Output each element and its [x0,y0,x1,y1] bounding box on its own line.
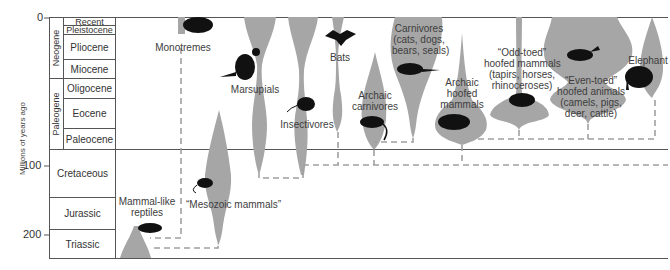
connector-mesozoic [150,246,218,248]
label-monotremes: Monotremes [150,42,216,53]
echidna-icon [183,17,213,33]
label-line: Archaic [350,90,400,101]
y-axis-title: Millions of years ago [18,89,27,189]
era-neogene: Neogene [49,18,63,78]
connector-placental-base [303,165,668,175]
label-line: hoofed [437,88,487,99]
tick-label-0: 0 [37,11,43,23]
label-line: mammals [437,99,487,110]
label-even-toed: “Even-toed” hoofed animals (camels, pigs… [554,75,628,119]
label-bats: Bats [328,52,352,63]
label-line: hoofed mammals [484,58,560,69]
label-marsupials: Marsupials [230,84,280,95]
kangaroo-icon [220,48,260,80]
period-jurassic: Jurassic [50,198,115,230]
label-line: Carnivores [392,23,446,34]
label-line: Archaic [437,77,487,88]
shrew-icon [287,97,315,112]
label-line: hoofed animals [554,86,628,97]
era-paleogene-label: Paleogene [51,92,61,135]
label-archaic-hoofed: Archaic hoofed mammals [437,77,487,110]
era-paleogene: Paleogene [49,79,63,149]
period-miocene: Miocene [64,60,115,79]
label-line: (cats, dogs, [392,34,446,45]
period-pleistocene: Pleistocene [64,26,115,35]
period-cretaceous: Cretaceous [50,150,115,198]
label-line: deer, cattle) [554,108,628,119]
label-carnivores: Carnivores (cats, dogs, bears, seals) [392,23,446,56]
archaic-hoofed-icon [438,114,470,130]
tick-label-100: 100 [23,159,41,171]
label-line: rhinoceroses) [484,80,560,91]
label-archaic-carnivores: Archaic carnivores [350,90,400,112]
tapir-icon [509,93,535,107]
label-odd-toed: “Odd-toed” hoofed mammals (tapirs, horse… [484,47,560,91]
period-triassic: Triassic [50,230,115,258]
branch-mesozoic-mammals [205,110,231,246]
period-oligocene: Oligocene [64,79,115,99]
mammal-like-reptile-icon [138,223,162,233]
label-line: reptiles [117,207,177,218]
label-mesozoic-mammals: “Mesozoic mammals” [186,199,276,210]
label-insectivores: Insectivores [277,119,337,130]
period-eocene: Eocene [64,99,115,129]
tick-label-200: 200 [23,228,41,240]
period-paleocene: Paleocene [64,129,115,150]
label-line: “Odd-toed” [484,47,560,58]
label-line: bears, seals) [392,45,446,56]
label-elephant: Elephant [626,55,670,66]
period-pliocene: Pliocene [64,35,115,60]
label-line: “Even-toed” [554,75,628,86]
label-line: Mammal-like [117,196,177,207]
label-line: carnivores [350,101,400,112]
connector-marsupials-insectivores [259,172,303,178]
era-neogene-label: Neogene [51,30,61,67]
label-line: (tapirs, horses, [484,69,560,80]
label-mammal-like-reptiles: Mammal-like reptiles [117,196,177,218]
branch-insectivores [288,17,318,175]
label-line: (camels, pigs, [554,97,628,108]
